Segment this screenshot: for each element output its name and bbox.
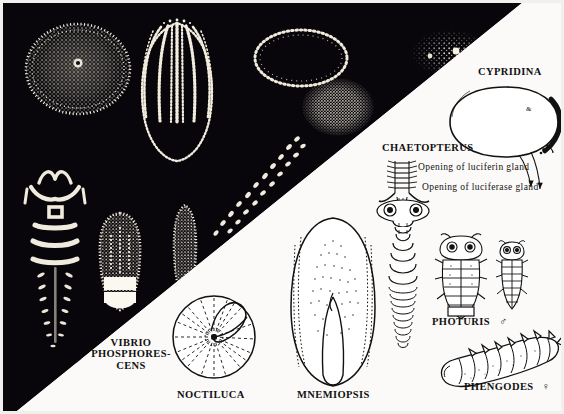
label-vibrio-phosphorescens: VIBRIO PHOSPHORES- CENS [81, 337, 181, 371]
illustration-plate: & [0, 0, 564, 414]
phengodes-larva-dorsal [375, 199, 431, 351]
glowing-beetle-larva [19, 163, 91, 353]
male-symbol-icon: ♂ [499, 315, 508, 327]
label-cypridina: CYPRIDINA [478, 66, 542, 77]
photuris-beetle [435, 233, 487, 325]
label-mnemiopsis: MNEMIOPSIS [297, 389, 370, 400]
luminous-sphere-colony [21, 19, 136, 121]
glowing-ctenophore [131, 17, 223, 167]
label-luciferase-gland: Opening of luciferase gland [422, 182, 539, 192]
label-vibrio-line3: CENS [81, 360, 181, 371]
label-phengodes: PHENGODES ♀ [464, 381, 550, 393]
label-vibrio-line2: PHOSPHORES- [81, 348, 181, 359]
label-noctiluca: NOCTILUCA [177, 389, 245, 400]
label-vibrio-line1: VIBRIO [81, 337, 181, 348]
label-photuris: PHOTURIS ♂ [432, 316, 508, 328]
glowing-firefly-body [95, 211, 145, 317]
photuris-beetle-small [495, 239, 529, 315]
label-chaetopterus: CHAETOPTERUS [382, 142, 474, 153]
mnemiopsis-ctenophore [285, 215, 381, 391]
dense-luminous-blob [300, 76, 376, 138]
female-symbol-icon: ♀ [542, 380, 551, 392]
label-phengodes-text: PHENGODES [464, 381, 534, 392]
label-luciferin-gland: Opening of luciferin gland [418, 162, 529, 172]
svg-text:&: & [526, 105, 532, 113]
label-photuris-text: PHOTURIS [432, 316, 490, 327]
noctiluca-dinoflagellate [171, 291, 257, 383]
plate-frame: & [3, 3, 561, 411]
